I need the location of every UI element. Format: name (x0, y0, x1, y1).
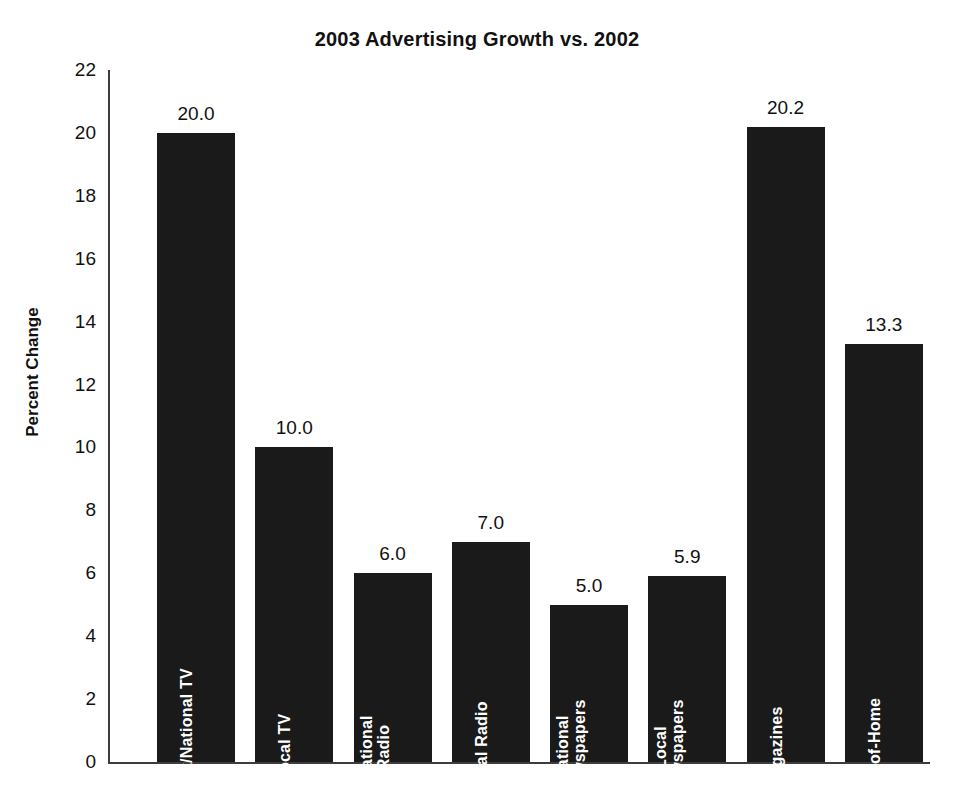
y-axis-tick-label: 16 (75, 248, 96, 270)
bar-category-label: Local TV (277, 714, 294, 782)
bar-rect[interactable]: Out-of-Home (845, 344, 923, 762)
bar-item[interactable]: Local Radio7.0 (452, 70, 530, 762)
bar-item[interactable]: National Radio6.0 (354, 70, 432, 762)
bar-category-label: National Newspapers (555, 700, 589, 796)
y-axis-tick-label: 12 (75, 374, 96, 396)
bar-rect[interactable]: Network/National TV (157, 133, 235, 762)
bar-value-label: 20.0 (178, 103, 215, 125)
bar-rect[interactable]: National Radio (354, 573, 432, 762)
bar-chart: 2003 Advertising Growth vs. 2002 Percent… (0, 0, 954, 805)
y-axis-tick-label: 10 (75, 436, 96, 458)
bar-rect[interactable]: Magazines (747, 127, 825, 762)
y-axis-tick-label: 6 (85, 562, 96, 584)
y-axis-tick-label: 20 (75, 122, 96, 144)
bar-rect[interactable]: Local Newspapers (648, 576, 726, 762)
y-axis-title: Percent Change (23, 292, 43, 452)
bar-item[interactable]: Local TV10.0 (255, 70, 333, 762)
bar-item[interactable]: Network/National TV20.0 (157, 70, 235, 762)
bar-value-label: 20.2 (767, 97, 804, 119)
y-axis-line (108, 70, 110, 762)
y-axis-tick-label: 18 (75, 185, 96, 207)
bar-category-label: Local Newspapers (654, 700, 688, 796)
x-axis-line (108, 762, 930, 764)
y-axis-tick-label: 22 (75, 59, 96, 81)
bar-value-label: 13.3 (865, 314, 902, 336)
y-axis-tick-label: 0 (85, 751, 96, 773)
bar-rect[interactable]: National Newspapers (550, 605, 628, 762)
bar-rect[interactable]: Local TV (255, 447, 333, 762)
y-axis-tick-label: 4 (85, 625, 96, 647)
bar-value-label: 6.0 (379, 543, 405, 565)
bar-rect[interactable]: Local Radio (452, 542, 530, 762)
bar-value-label: 5.9 (674, 546, 700, 568)
y-axis-tick-label: 14 (75, 311, 96, 333)
bar-value-label: 10.0 (276, 417, 313, 439)
y-axis-tick-label: 2 (85, 688, 96, 710)
bar-item[interactable]: Out-of-Home13.3 (845, 70, 923, 762)
bar-item[interactable]: Local Newspapers5.9 (648, 70, 726, 762)
bar-category-label: Local Radio (474, 702, 491, 795)
bar-value-label: 5.0 (576, 575, 602, 597)
bar-category-label: Network/National TV (179, 668, 196, 805)
bar-item[interactable]: Magazines20.2 (747, 70, 825, 762)
y-axis-tick-label: 8 (85, 499, 96, 521)
bar-value-label: 7.0 (478, 512, 504, 534)
chart-title: 2003 Advertising Growth vs. 2002 (0, 28, 954, 51)
bar-item[interactable]: National Newspapers5.0 (550, 70, 628, 762)
bar-category-label: Magazines (769, 707, 786, 790)
bar-category-label: Out-of-Home (867, 698, 884, 798)
plot-area: 0246810121416182022 Network/National TV2… (108, 70, 930, 762)
bar-category-label: National Radio (359, 716, 393, 781)
